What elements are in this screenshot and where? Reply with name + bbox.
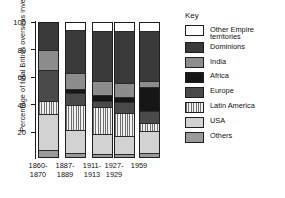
tick-label-40: 40	[18, 100, 26, 109]
segment-dominions	[39, 23, 58, 50]
segment-dominions	[93, 31, 112, 81]
legend-swatch-india-icon	[185, 57, 204, 68]
segment-africa	[140, 87, 159, 111]
tick-label-100: 100	[13, 18, 26, 27]
legend-item-africa: Africa	[185, 72, 285, 84]
segment-india	[93, 81, 112, 96]
legend-title: Key	[185, 11, 285, 20]
tick-label-20: 20	[18, 128, 26, 137]
segment-dominions	[115, 31, 134, 83]
legend-label-dominions: Dominions	[210, 42, 245, 50]
segment-europe	[140, 111, 159, 123]
legend-label-india: India	[210, 57, 226, 65]
bar-1927-1929	[114, 22, 135, 158]
legend-label-usa: USA	[210, 117, 225, 125]
segment-other-empire	[93, 23, 112, 31]
segment-others	[140, 153, 159, 157]
segment-india	[39, 50, 58, 70]
segment-others	[66, 153, 85, 157]
legend-swatch-dominions-icon	[185, 42, 204, 53]
legend-label-others: Others	[210, 132, 232, 140]
x-label-line2: 1929	[94, 171, 134, 180]
tick-label-80: 80	[18, 45, 26, 54]
legend-item-dominions: Dominions	[185, 42, 285, 54]
segment-europe	[66, 93, 85, 105]
segment-others	[93, 154, 112, 157]
legend-label-other-empire: Other Empire territories	[210, 25, 254, 41]
legend-label-europe: Europe	[210, 87, 234, 95]
segment-dominions	[140, 31, 159, 81]
bar-1860-1870	[38, 22, 59, 158]
segment-usa	[93, 134, 112, 154]
segment-europe	[93, 101, 112, 108]
segment-dominions	[66, 30, 85, 73]
tick-100	[31, 22, 35, 23]
segment-latin-america	[39, 101, 58, 114]
tick-40	[31, 104, 35, 105]
bar-1959	[139, 22, 160, 158]
segment-usa	[39, 114, 58, 150]
tick-60	[31, 77, 35, 78]
segment-other-empire	[140, 23, 159, 31]
segment-europe	[115, 102, 134, 113]
plot-area	[36, 22, 162, 158]
legend-label-africa: Africa	[210, 72, 229, 80]
tick-20	[31, 132, 35, 133]
legend-swatch-other-empire-icon	[185, 25, 204, 36]
bar-1911-1913	[92, 22, 113, 158]
legend-swatch-europe-icon	[185, 87, 204, 98]
segment-europe	[39, 70, 58, 101]
segment-others	[39, 150, 58, 157]
legend-swatch-others-icon	[185, 132, 204, 143]
legend-item-others: Others	[185, 132, 285, 144]
bar-1887-1889	[65, 22, 86, 158]
legend-swatch-usa-icon	[185, 117, 204, 128]
segment-latin-america	[93, 107, 112, 134]
segment-latin-america	[66, 105, 85, 130]
tick-label-60: 60	[18, 73, 26, 82]
segment-others	[115, 154, 134, 157]
segment-latin-america	[140, 123, 159, 131]
legend-item-usa: USA	[185, 117, 285, 129]
segment-india	[115, 83, 134, 96]
segment-other-empire	[115, 23, 134, 31]
x-label-line1: 1959	[119, 162, 159, 171]
legend-swatch-africa-icon	[185, 72, 204, 83]
legend-swatch-latin-america-icon	[185, 102, 204, 113]
legend: Key Other Empire territories Dominions I…	[185, 11, 285, 146]
legend-item-latin-america: Latin America	[185, 102, 285, 114]
legend-label-latin-america: Latin America	[210, 102, 255, 110]
segment-latin-america	[115, 113, 134, 136]
segment-usa	[115, 136, 134, 155]
legend-item-other-empire: Other Empire territories	[185, 25, 285, 39]
tick-80	[31, 49, 35, 50]
segment-usa	[140, 131, 159, 152]
legend-item-europe: Europe	[185, 87, 285, 99]
legend-item-india: India	[185, 57, 285, 69]
stacked-bar-chart: Percentage of total British overseas inv…	[0, 0, 285, 198]
segment-usa	[66, 130, 85, 153]
x-label-1959: 1959	[119, 162, 159, 171]
segment-india	[66, 73, 85, 89]
segment-other-empire	[66, 23, 85, 30]
segment-india	[140, 81, 159, 88]
